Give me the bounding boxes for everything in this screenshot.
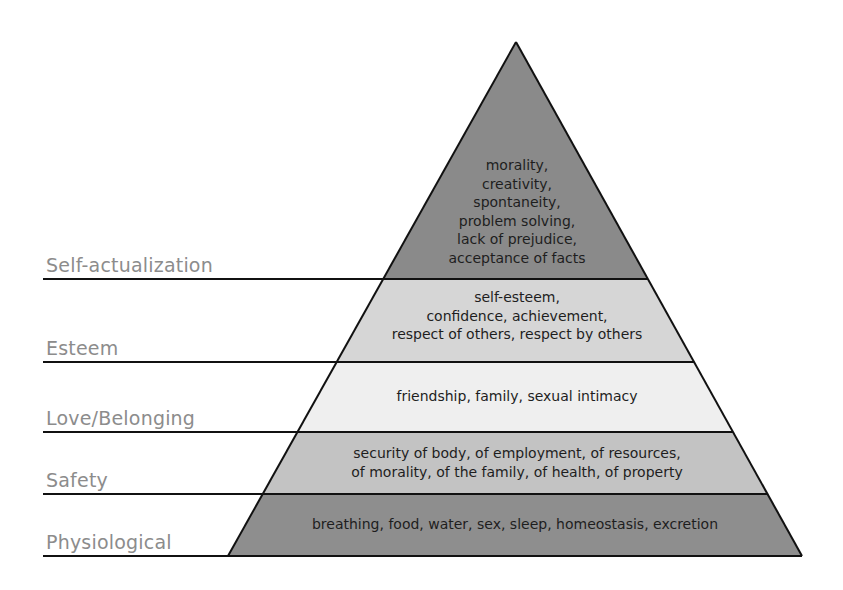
text-line: lack of prejudice,: [448, 230, 585, 249]
text-line: creativity,: [448, 175, 585, 194]
text-line: problem solving,: [448, 212, 585, 231]
text-safety: security of body, of employment, of reso…: [351, 444, 682, 481]
text-line: acceptance of facts: [448, 249, 585, 268]
label-love-belonging: Love/Belonging: [46, 407, 195, 429]
text-self-actualization: morality, creativity, spontaneity, probl…: [448, 156, 585, 267]
text-line: breathing, food, water, sex, sleep, home…: [312, 515, 718, 534]
text-line: of morality, of the family, of health, o…: [351, 463, 682, 482]
text-line: security of body, of employment, of reso…: [351, 444, 682, 463]
text-line: self-esteem,: [392, 288, 643, 307]
label-physiological: Physiological: [46, 531, 172, 553]
label-safety: Safety: [46, 469, 108, 491]
text-line: spontaneity,: [448, 193, 585, 212]
text-physiological: breathing, food, water, sex, sleep, home…: [312, 515, 718, 534]
label-self-actualization: Self-actualization: [46, 254, 213, 276]
text-esteem: self-esteem, confidence, achievement, re…: [392, 288, 643, 344]
text-love-belonging: friendship, family, sexual intimacy: [397, 387, 638, 406]
text-line: morality,: [448, 156, 585, 175]
text-line: respect of others, respect by others: [392, 325, 643, 344]
text-line: friendship, family, sexual intimacy: [397, 387, 638, 406]
text-line: confidence, achievement,: [392, 307, 643, 326]
label-esteem: Esteem: [46, 337, 118, 359]
